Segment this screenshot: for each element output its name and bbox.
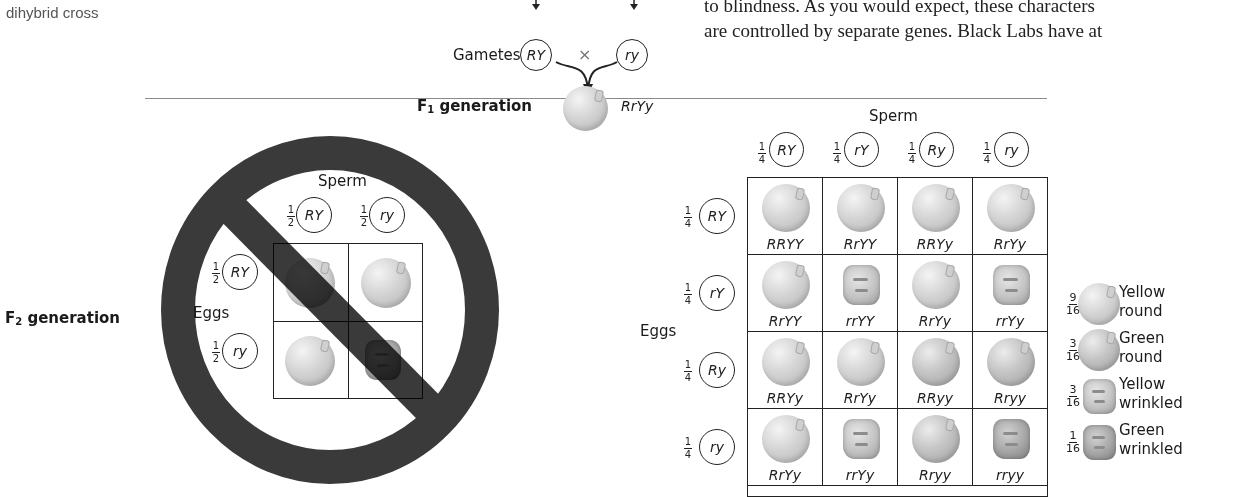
fraction-num: 1 bbox=[685, 206, 691, 216]
correct-egg-gamete-1: RY bbox=[699, 198, 735, 234]
f1-label-prefix: F bbox=[417, 97, 427, 115]
legend-label: Greenwrinkled bbox=[1119, 421, 1183, 459]
fraction-num: 1 bbox=[1070, 431, 1077, 441]
legend-color: Green bbox=[1119, 421, 1183, 440]
gamete-arrows-icon bbox=[440, 0, 680, 100]
correct-sperm-gamete-3: Ry bbox=[919, 132, 954, 167]
fraction-num: 9 bbox=[1070, 293, 1077, 303]
genotype-label: rryy bbox=[973, 467, 1047, 483]
legend-label: Yellowwrinkled bbox=[1119, 375, 1183, 413]
punnett-cell-3-3: RRyy bbox=[897, 331, 973, 409]
legend-shape: wrinkled bbox=[1119, 440, 1183, 459]
fraction-den: 4 bbox=[759, 155, 765, 165]
correct-egg-gamete-4: ry bbox=[699, 429, 735, 465]
f1-label-suffix: generation bbox=[434, 97, 532, 115]
f2-label-suffix: generation bbox=[22, 309, 120, 327]
pea-yellow-round-icon bbox=[912, 184, 960, 232]
fraction-den: 4 bbox=[685, 373, 691, 383]
allele: RY bbox=[708, 208, 726, 224]
fraction-den: 4 bbox=[685, 219, 691, 229]
genotype-label: RRYY bbox=[748, 236, 822, 252]
genotype-label: Rryy bbox=[973, 390, 1047, 406]
fraction-num: 1 bbox=[834, 142, 840, 152]
punnett-cell-1-2: RrYY bbox=[822, 177, 898, 255]
punnett-cell-1-4: RrYy bbox=[972, 177, 1048, 255]
legend-ratio: 316 bbox=[1066, 385, 1080, 408]
pea-yellow-round-icon bbox=[837, 184, 885, 232]
pea-green-round-icon bbox=[987, 338, 1035, 386]
f1-genotype: RrYy bbox=[621, 98, 653, 114]
genotype-label: RRyy bbox=[898, 390, 972, 406]
fraction-den: 4 bbox=[685, 450, 691, 460]
allele: Ry bbox=[927, 142, 945, 158]
punnett-cell-4-2: rrYy bbox=[822, 408, 898, 486]
body-text-line-1: to blindness. As you would expect, these… bbox=[704, 0, 1044, 18]
genotype-label: RrYy bbox=[748, 467, 822, 483]
legend-label: Yellowround bbox=[1119, 283, 1165, 321]
correct-egg-fraction-3: 14 bbox=[684, 360, 692, 383]
fraction-num: 1 bbox=[759, 142, 765, 152]
pea-yellow-round-icon bbox=[912, 261, 960, 309]
punnett-cell-1-3: RRYy bbox=[897, 177, 973, 255]
legend-label: Greenround bbox=[1119, 329, 1164, 367]
allele: ry bbox=[1004, 142, 1018, 158]
correct-sperm-label: Sperm bbox=[869, 107, 918, 125]
fraction-num: 1 bbox=[685, 360, 691, 370]
punnett-cell-1-1: RRYY bbox=[747, 177, 823, 255]
genotype-label: RrYy bbox=[973, 236, 1047, 252]
legend-ratio: 116 bbox=[1066, 431, 1080, 454]
correct-sperm-gamete-4: ry bbox=[994, 132, 1029, 167]
fraction-den: 16 bbox=[1066, 444, 1080, 454]
punnett-cell-3-2: RrYy bbox=[822, 331, 898, 409]
punnett-cell-2-3: RrYy bbox=[897, 254, 973, 332]
pea-yellow-round-icon bbox=[762, 415, 810, 463]
pea-yellow-round-icon bbox=[837, 338, 885, 386]
genotype-label: RrYy bbox=[823, 390, 897, 406]
f2-label-prefix: F bbox=[5, 309, 15, 327]
legend-item-green-round: 316Greenround bbox=[1062, 329, 1235, 375]
fraction-num: 1 bbox=[909, 142, 915, 152]
allele: Ry bbox=[708, 362, 726, 378]
genotype-label: rrYY bbox=[823, 313, 897, 329]
body-text-line-2: are controlled by separate genes. Black … bbox=[704, 18, 1044, 43]
pea-yellow-wrinkled-icon bbox=[1083, 379, 1116, 414]
genotype-label: RrYy bbox=[898, 313, 972, 329]
genotype-label: RRYy bbox=[748, 390, 822, 406]
punnett-cell-3-1: RRYy bbox=[747, 331, 823, 409]
pea-yellow-wrinkled-icon bbox=[843, 265, 880, 305]
pea-yellow-round-icon bbox=[987, 184, 1035, 232]
fraction-den: 4 bbox=[685, 296, 691, 306]
legend-color: Yellow bbox=[1119, 283, 1165, 302]
fraction-num: 3 bbox=[1070, 385, 1077, 395]
punnett-cell-4-1: RrYy bbox=[747, 408, 823, 486]
legend-shape: round bbox=[1119, 302, 1165, 321]
genotype-label: Rryy bbox=[898, 467, 972, 483]
correct-egg-gamete-2: rY bbox=[699, 275, 735, 311]
punnett-cell-2-1: RrYY bbox=[747, 254, 823, 332]
pea-yellow-round-icon bbox=[762, 261, 810, 309]
pea-green-wrinkled-icon bbox=[1083, 425, 1116, 460]
allele: ry bbox=[710, 439, 724, 455]
correct-sperm-fraction-1: 14 bbox=[758, 142, 766, 165]
fraction-num: 1 bbox=[685, 437, 691, 447]
correct-sperm-fraction-4: 14 bbox=[983, 142, 991, 165]
fraction-num: 1 bbox=[685, 283, 691, 293]
fraction-num: 1 bbox=[984, 142, 990, 152]
pea-yellow-wrinkled-icon bbox=[993, 265, 1030, 305]
pea-green-wrinkled-icon bbox=[993, 419, 1030, 459]
punnett-cell-2-2: rrYY bbox=[822, 254, 898, 332]
fraction-den: 16 bbox=[1066, 398, 1080, 408]
allele: rY bbox=[710, 285, 724, 301]
genotype-label: RrYY bbox=[748, 313, 822, 329]
figure-caption: dihybrid cross bbox=[6, 4, 99, 21]
genotype-label: rrYy bbox=[823, 467, 897, 483]
pea-yellow-round-icon bbox=[1078, 283, 1120, 325]
legend-shape: wrinkled bbox=[1119, 394, 1183, 413]
legend-item-green-wrinkled: 116Greenwrinkled bbox=[1062, 421, 1235, 467]
correct-egg-fraction-1: 14 bbox=[684, 206, 692, 229]
legend-color: Green bbox=[1119, 329, 1164, 348]
correct-sperm-fraction-3: 14 bbox=[908, 142, 916, 165]
genotype-label: RrYY bbox=[823, 236, 897, 252]
legend-shape: round bbox=[1119, 348, 1164, 367]
legend-color: Yellow bbox=[1119, 375, 1183, 394]
